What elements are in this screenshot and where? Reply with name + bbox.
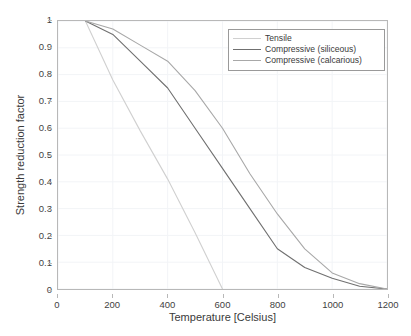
legend: Tensile Compressive (siliceous) Compress… [228,29,385,71]
y-tick-mark [48,236,52,237]
y-tick-mark [48,128,52,129]
y-tick-label: 0.4 [6,177,52,187]
y-tick-label: 0.5 [6,150,52,160]
x-tick-mark [388,294,389,298]
y-tick-label: 0.6 [6,123,52,133]
y-tick-label: 0.1 [6,258,52,268]
y-tick-mark [48,47,52,48]
y-tick-mark [48,290,52,291]
x-tick-mark [333,294,334,298]
legend-entry-compressive-siliceous[interactable]: Compressive (siliceous) [233,44,380,55]
x-tick-label: 200 [89,299,135,310]
y-tick-label: 0 [6,285,52,295]
legend-line-calcarious-icon [233,55,261,66]
legend-line-tensile-icon [233,33,261,44]
y-tick-label: 0.2 [6,231,52,241]
y-axis-label: Strength reduction factor [14,20,28,290]
x-tick-mark [278,294,279,298]
y-tick-label: 1 [6,15,52,25]
y-tick-mark [48,155,52,156]
y-tick-mark [48,209,52,210]
x-tick-label: 600 [200,299,246,310]
legend-entry-compressive-calcarious[interactable]: Compressive (calcarious) [233,55,380,66]
x-tick-label: 800 [255,299,301,310]
legend-label-tensile: Tensile [265,33,292,44]
legend-label-compressive-siliceous: Compressive (siliceous) [265,44,356,55]
y-tick-mark [48,20,52,21]
x-tick-label: 400 [144,299,190,310]
chart-figure: 00.10.20.30.40.50.60.70.80.91 0200400600… [0,0,411,336]
legend-line-siliceous-icon [233,44,261,55]
x-tick-mark [57,294,58,298]
x-tick-label: 0 [34,299,80,310]
y-tick-mark [48,101,52,102]
y-tick-label: 0.8 [6,69,52,79]
y-tick-mark [48,263,52,264]
y-tick-label: 0.3 [6,204,52,214]
y-tick-label: 0.7 [6,96,52,106]
x-tick-mark [112,294,113,298]
x-axis-ticks: 020040060080010001200 [57,294,388,308]
x-axis-label: Temperature [Celsius] [57,311,388,323]
legend-entry-tensile[interactable]: Tensile [233,33,380,44]
x-tick-label: 1200 [365,299,411,310]
y-tick-label: 0.9 [6,42,52,52]
y-tick-mark [48,182,52,183]
x-tick-label: 1000 [310,299,356,310]
legend-label-compressive-calcarious: Compressive (calcarious) [265,55,362,66]
series-line-0 [85,21,222,289]
x-tick-mark [223,294,224,298]
x-tick-mark [167,294,168,298]
y-tick-mark [48,74,52,75]
